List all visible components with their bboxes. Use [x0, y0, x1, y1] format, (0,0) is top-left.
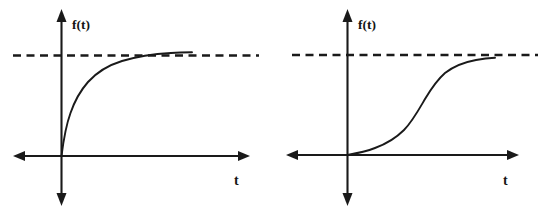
- y-axis: [57, 9, 67, 206]
- y-axis: [343, 9, 353, 206]
- y-axis-label: f(t): [358, 17, 376, 32]
- curve-saturating-exponential: [62, 52, 193, 156]
- y-axis-label: f(t): [72, 17, 90, 32]
- y-axis-arrow-up: [343, 9, 353, 22]
- y-axis-arrow-up: [57, 9, 67, 22]
- curve-sigmoid: [348, 58, 496, 155]
- figure-root: f(t) t f(t) t: [0, 0, 546, 213]
- x-axis-arrow-right: [238, 151, 250, 161]
- x-axis-arrow-right: [507, 150, 519, 160]
- panel-saturating-exponential: f(t) t: [0, 0, 273, 213]
- x-axis: [286, 150, 519, 160]
- panel-sigmoid: f(t) t: [273, 0, 546, 213]
- x-axis-arrow-left: [13, 151, 25, 161]
- x-axis-arrow-left: [286, 150, 298, 160]
- x-axis: [13, 151, 250, 161]
- y-axis-arrow-down: [57, 193, 67, 206]
- x-axis-label: t: [234, 173, 239, 188]
- x-axis-label: t: [503, 173, 508, 188]
- y-axis-arrow-down: [343, 193, 353, 206]
